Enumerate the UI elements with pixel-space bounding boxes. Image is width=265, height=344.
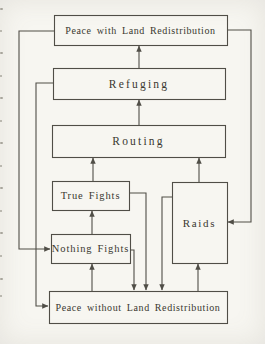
node-true-fights-box: [53, 182, 130, 211]
edge-raids-to-peace-without-land-redistribution: [162, 197, 172, 290]
node-raids-box: [173, 183, 228, 264]
scan-artifact-mark: [0, 52, 3, 54]
scan-artifact-mark: [0, 165, 2, 167]
scan-artifact-mark: [0, 97, 3, 99]
edge-refuging-to-peace-without-land-redistribution: [36, 83, 53, 306]
scan-artifact-mark: [0, 120, 2, 122]
scan-artifact-mark: [0, 142, 3, 144]
scan-artifact-mark: [0, 8, 3, 10]
flowchart-canvas: [0, 0, 265, 344]
scan-artifact-mark: [0, 75, 2, 77]
edge-peace-with-land-redistribution-to-raids: [227, 30, 251, 222]
scanned-flowchart-page: Peace with Land Redistribution Refuging …: [0, 0, 265, 344]
scan-artifact-mark: [0, 187, 3, 189]
node-nothing-fights-box: [52, 235, 131, 264]
scan-artifact-mark: [0, 255, 2, 257]
node-peace-without-land-redistribution-box: [50, 292, 228, 324]
node-routing-box: [53, 126, 226, 158]
node-peace-with-land-redistribution-box: [55, 16, 228, 46]
node-refuging-box: [54, 69, 226, 100]
edge-true-fights-to-peace-without-land-redistribution: [129, 193, 146, 290]
scan-artifact-mark: [0, 232, 3, 234]
scan-artifact-mark: [0, 30, 2, 32]
scan-artifact-mark: [0, 278, 3, 280]
scan-artifact-mark: [0, 295, 2, 297]
scan-artifact-mark: [0, 210, 2, 212]
